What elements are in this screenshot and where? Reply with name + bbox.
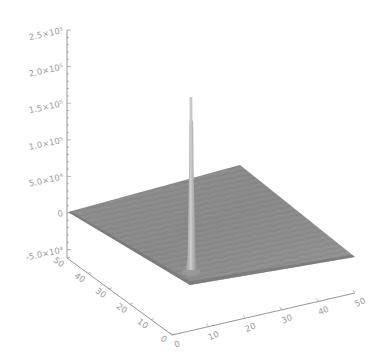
x-major-tick [243, 315, 245, 318]
x-tick-label: 30 [280, 312, 294, 326]
z-axis-ticks: -5.0×10⁴05.0×10⁴1.0×10⁵1.5×10⁵2.0×10⁵2.5… [25, 25, 71, 262]
x-axis-ticks: 01020304050 [170, 290, 367, 350]
y-tick-label: 50 [52, 255, 67, 269]
x-tick-label: 20 [243, 320, 257, 334]
x-tick-label: 0 [172, 338, 181, 349]
z-tick-label: 0 [57, 208, 64, 219]
z-tick-label: 1.5×10⁵ [28, 98, 64, 115]
y-major-tick [88, 272, 91, 273]
z-tick-label: 5.0×10⁴ [28, 171, 65, 188]
z-tick-label: 2.5×10⁵ [28, 25, 64, 42]
z-axis: -5.0×10⁴05.0×10⁴1.0×10⁵1.5×10⁵2.0×10⁵2.5… [25, 25, 71, 262]
x-axis: 01020304050 [170, 290, 367, 350]
y-major-tick [130, 303, 133, 304]
surface-plot: -5.0×10⁴05.0×10⁴1.0×10⁵1.5×10⁵2.0×10⁵2.5… [0, 0, 385, 361]
x-major-tick [353, 290, 355, 293]
z-tick-label: 1.0×10⁵ [28, 135, 64, 152]
y-tick-label: 10 [136, 316, 151, 330]
y-axis-line [67, 258, 172, 335]
y-major-tick [151, 319, 154, 320]
z-tick-label: 2.0×10⁵ [28, 62, 64, 79]
surface [68, 97, 355, 285]
x-major-tick [280, 307, 282, 310]
y-tick-label: 30 [94, 286, 109, 300]
y-tick-label: 0 [159, 333, 169, 344]
x-major-tick [316, 298, 318, 301]
y-major-tick [109, 288, 112, 289]
y-axis: 01020304050 [52, 255, 175, 345]
x-tick-label: 40 [316, 304, 330, 318]
y-axis-ticks: 01020304050 [52, 255, 175, 345]
x-tick-label: 10 [207, 329, 221, 343]
x-tick-label: 50 [353, 295, 367, 309]
x-major-tick [207, 324, 209, 327]
surface-ripples [68, 165, 355, 285]
y-tick-label: 20 [115, 301, 130, 315]
y-tick-label: 40 [73, 270, 88, 284]
